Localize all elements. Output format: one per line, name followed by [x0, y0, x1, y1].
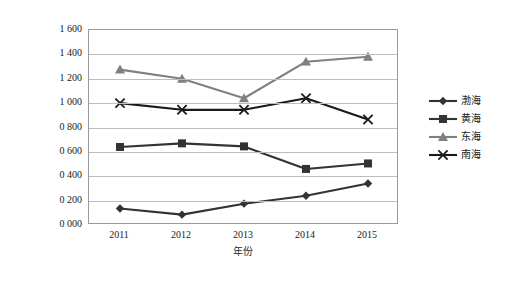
legend-item-东海[interactable]: 东海 — [428, 128, 500, 146]
legend-marker-triangle-icon — [428, 130, 458, 144]
gridline — [89, 128, 397, 129]
data-point-diamond — [302, 192, 310, 200]
data-point-square — [116, 143, 124, 151]
x-axis-title: 年份 — [88, 243, 398, 258]
data-point-square — [302, 165, 310, 173]
legend: 渤海黄海东海南海 — [428, 92, 500, 164]
gridline — [89, 79, 397, 80]
y-axis-tick-labels: 0 0000 2000 4000 6000 8001 0001 2001 400… — [34, 24, 86, 230]
data-point-square — [439, 115, 447, 123]
legend-label: 渤海 — [461, 94, 481, 108]
data-point-diamond — [116, 204, 124, 212]
y-tick-label: 1 000 — [34, 96, 82, 108]
legend-item-南海[interactable]: 南海 — [428, 146, 500, 164]
x-tick-label: 2011 — [89, 228, 149, 242]
plot-area — [88, 29, 398, 224]
y-tick-label: 0 000 — [34, 218, 82, 230]
x-tick-label: 2012 — [151, 228, 211, 242]
x-tick-label: 2013 — [213, 228, 273, 242]
gridline — [89, 152, 397, 153]
legend-label: 东海 — [461, 130, 481, 144]
legend-marker-diamond-icon — [428, 94, 458, 108]
data-point-diamond — [178, 210, 186, 218]
series-line — [120, 184, 368, 215]
data-point-square — [178, 139, 186, 147]
data-point-square — [240, 142, 248, 150]
legend-label: 南海 — [461, 148, 481, 162]
y-tick-label: 0 800 — [34, 121, 82, 133]
x-tick-label: 2015 — [337, 228, 397, 242]
series-0 — [116, 179, 372, 218]
data-point-diamond — [439, 97, 447, 105]
legend-item-渤海[interactable]: 渤海 — [428, 92, 500, 110]
figure-chart-total-phosphorus-emissions: 总磷排放量/（t/a） 0 0000 2000 4000 6000 8001 0… — [0, 0, 506, 281]
legend-label: 黄海 — [461, 112, 481, 126]
legend-marker-square-icon — [428, 112, 458, 126]
y-tick-label: 1 400 — [34, 47, 82, 59]
series-line — [120, 57, 368, 98]
series-2 — [115, 52, 373, 102]
x-axis-tick-labels: 20112012201320142015 — [88, 228, 398, 244]
y-tick-label: 0 200 — [34, 194, 82, 206]
data-point-diamond — [364, 179, 372, 187]
y-tick-label: 1 600 — [34, 23, 82, 35]
legend-marker-cross-icon — [428, 148, 458, 162]
data-point-square — [364, 159, 372, 167]
data-point-triangle — [115, 65, 125, 74]
y-tick-label: 1 200 — [34, 72, 82, 84]
gridline — [89, 103, 397, 104]
y-tick-label: 0 400 — [34, 169, 82, 181]
x-tick-label: 2014 — [275, 228, 335, 242]
gridline — [89, 176, 397, 177]
legend-item-黄海[interactable]: 黄海 — [428, 110, 500, 128]
series-1 — [116, 139, 372, 173]
gridline — [89, 54, 397, 55]
y-tick-label: 0 600 — [34, 145, 82, 157]
gridline — [89, 201, 397, 202]
